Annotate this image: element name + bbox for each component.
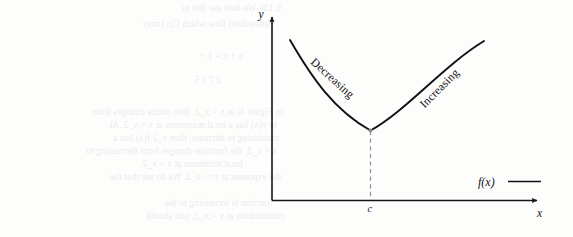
critical-point-label: c — [368, 203, 373, 214]
function-curve — [290, 40, 484, 131]
x-axis-label: x — [536, 207, 543, 219]
function-graph-figure: y x c Decreasing Increasing f(x) — [0, 0, 573, 237]
legend-series-label: f(x) — [478, 175, 495, 189]
figure-page: 6.19). We then use this to (infeasible) … — [0, 0, 573, 237]
y-axis-label: y — [258, 8, 265, 21]
legend: f(x) — [478, 175, 541, 189]
vertex-point — [369, 129, 373, 133]
